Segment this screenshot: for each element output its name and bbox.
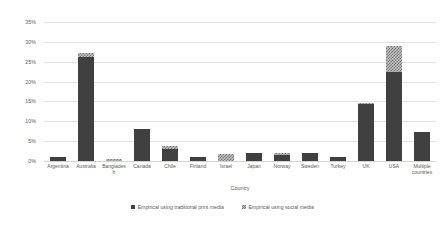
bar-stack [358,103,375,161]
bar-stack [50,157,67,161]
y-axis-tick-label: 20% [25,79,36,85]
x-axis-tick-label: Norway [268,163,296,169]
bar-stack [106,159,123,161]
x-axis-title: Country [44,185,436,191]
bar-segment-print [302,153,319,161]
chart-legend: Empirical using traditional print media … [0,204,445,210]
bar-stack [134,129,151,161]
legend-label-social: Empirical using social media [248,204,313,210]
y-axis-tick-label: 0% [28,158,36,164]
y-axis: 0%5%10%15%20%25%30%35% [0,22,40,161]
gridline [44,161,436,162]
x-axis-tick-label: Multiple countries [408,163,436,176]
legend-swatch-print-icon [131,205,135,209]
bar-segment-print [274,155,291,161]
bar-segment-print [134,129,151,161]
bar-segment-print [386,72,403,161]
bar-segment-social [386,46,403,71]
bar-group [352,22,380,161]
bar-stack [190,157,207,161]
bar-stack [302,153,319,161]
y-axis-tick-label: 5% [28,138,36,144]
x-axis-tick-label: Japan [240,163,268,169]
bar-group [184,22,212,161]
x-axis-tick-label: Canada [128,163,156,169]
bar-segment-print [50,157,67,161]
bar-group [128,22,156,161]
x-axis-tick-label: Chile [156,163,184,169]
x-axis-tick-label: Finland [184,163,212,169]
bar-segment-print [330,157,347,161]
x-axis-tick-label: Israel [212,163,240,169]
bar-stack [246,153,263,161]
bar-group [380,22,408,161]
bar-group [212,22,240,161]
bar-group [296,22,324,161]
bar-group [324,22,352,161]
bar-group [240,22,268,161]
stacked-bar-chart: 0%5%10%15%20%25%30%35% ArgentinaAustrali… [0,0,445,229]
bar-segment-print [246,153,263,161]
legend-swatch-social-icon [242,205,246,209]
x-axis-tick-label: Turkey [324,163,352,169]
legend-item-print: Empirical using traditional print media [131,204,224,210]
bar-stack [386,46,403,161]
y-axis-tick-label: 10% [25,118,36,124]
bar-segment-print [358,104,375,161]
x-axis: ArgentinaAustraliaBangladeshCanadaChileF… [44,163,436,183]
bar-segment-social [218,154,235,161]
bar-stack [330,157,347,161]
x-axis-tick-label: Argentina [44,163,72,169]
bar-group [268,22,296,161]
x-axis-tick-label: USA [380,163,408,169]
bar-segment-social [106,159,123,161]
y-axis-tick-label: 15% [25,98,36,104]
bar-group [44,22,72,161]
y-axis-tick-label: 30% [25,39,36,45]
x-axis-tick-label: Bangladesh [100,163,128,176]
legend-label-print: Empirical using traditional print media [138,204,224,210]
bar-stack [78,53,95,161]
bar-series-container [44,22,436,161]
bar-stack [274,153,291,161]
bar-group [156,22,184,161]
bar-stack [218,154,235,161]
y-axis-tick-label: 35% [25,19,36,25]
bar-segment-print [78,57,95,161]
x-axis-tick-label: Sweden [296,163,324,169]
bar-segment-print [162,149,179,161]
bar-group [100,22,128,161]
bar-segment-print [414,132,431,161]
x-axis-tick-label: Australia [72,163,100,169]
bar-group [72,22,100,161]
legend-item-social: Empirical using social media [242,204,314,210]
bar-stack [414,132,431,161]
y-axis-tick-label: 25% [25,59,36,65]
bar-segment-print [190,157,207,161]
x-axis-tick-label: UK [352,163,380,169]
bar-group [408,22,436,161]
bar-stack [162,146,179,161]
plot-area [44,22,436,161]
